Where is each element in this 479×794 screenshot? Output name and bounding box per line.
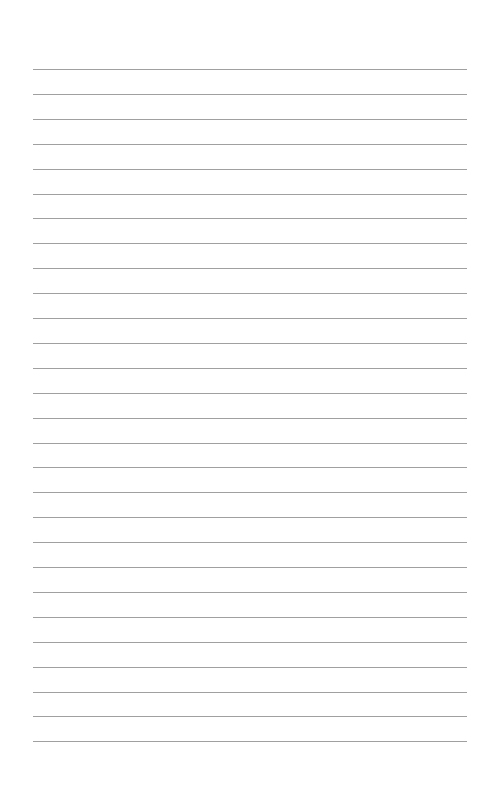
ruled-line: [33, 642, 467, 643]
ruled-line: [33, 94, 467, 95]
ruled-line: [33, 119, 467, 120]
ruled-line: [33, 492, 467, 493]
ruled-line: [33, 293, 467, 294]
ruled-line: [33, 243, 467, 244]
ruled-line: [33, 467, 467, 468]
ruled-line: [33, 716, 467, 717]
ruled-line: [33, 169, 467, 170]
ruled-line: [33, 144, 467, 145]
ruled-line: [33, 517, 467, 518]
ruled-line: [33, 194, 467, 195]
ruled-line: [33, 69, 467, 70]
ruled-line: [33, 268, 467, 269]
ruled-line: [33, 542, 467, 543]
ruled-line: [33, 418, 467, 419]
ruled-line: [33, 343, 467, 344]
ruled-line: [33, 592, 467, 593]
ruled-line: [33, 617, 467, 618]
ruled-line: [33, 692, 467, 693]
ruled-line: [33, 567, 467, 568]
ruled-line: [33, 318, 467, 319]
ruled-line: [33, 218, 467, 219]
ruled-line: [33, 741, 467, 742]
lined-paper-sheet: [0, 0, 479, 794]
ruled-line: [33, 393, 467, 394]
ruled-line: [33, 443, 467, 444]
ruled-line: [33, 368, 467, 369]
ruled-line: [33, 667, 467, 668]
